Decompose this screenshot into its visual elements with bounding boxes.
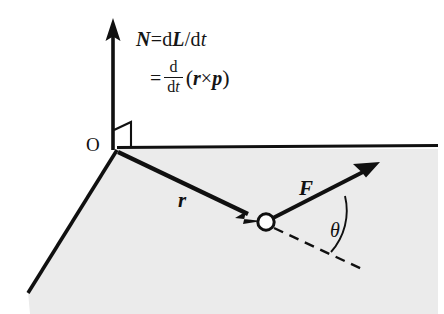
torque-diagram-figure: N=dL/dt = d dt (r×p) O r F θ [0, 0, 444, 314]
right-angle-marker [114, 122, 131, 146]
plane-edge-horizontal [117, 146, 438, 148]
diagram-canvas [0, 0, 444, 314]
particle-point [258, 214, 274, 230]
reference-plane [28, 149, 438, 314]
